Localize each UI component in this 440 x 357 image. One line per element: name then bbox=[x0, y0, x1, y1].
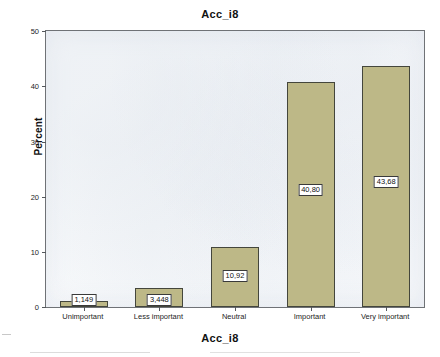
y-axis-tick-mark bbox=[42, 142, 46, 143]
y-axis-tick-mark bbox=[42, 86, 46, 87]
y-axis-tick: 50 bbox=[31, 22, 46, 40]
plot-area: 010203040501,1493,44810,9240,8043,68 bbox=[45, 30, 425, 308]
bar-value-label: 1,149 bbox=[71, 294, 96, 306]
y-axis-tick-label: 10 bbox=[31, 248, 42, 257]
y-axis-tick-mark bbox=[42, 197, 46, 198]
chart-title: Acc_i8 bbox=[0, 8, 440, 20]
x-axis-tick-mark bbox=[84, 307, 85, 311]
bar-value-label: 10,92 bbox=[223, 270, 248, 282]
y-axis-tick-label: 20 bbox=[31, 193, 42, 202]
x-axis-tick-mark bbox=[386, 307, 387, 311]
bar-chart: Acc_i8 Percent 010203040501,1493,44810,9… bbox=[0, 0, 440, 357]
scan-artifact bbox=[2, 334, 11, 335]
scan-artifact bbox=[30, 352, 150, 353]
bar-value-label: 40,80 bbox=[298, 184, 323, 196]
bar-value-label: 43,68 bbox=[374, 176, 399, 188]
x-axis-tick-mark bbox=[311, 307, 312, 311]
x-axis-tick-mark bbox=[159, 307, 160, 311]
y-axis-tick: 10 bbox=[31, 243, 46, 261]
bar-value-label: 3,448 bbox=[147, 294, 172, 306]
x-axis-tick-label: Very important bbox=[361, 312, 409, 321]
y-axis-tick-label: 40 bbox=[31, 82, 42, 91]
x-axis-tick-label: Unimportant bbox=[62, 312, 103, 321]
scan-artifact bbox=[210, 352, 360, 353]
y-axis-tick-label: 30 bbox=[31, 138, 42, 147]
x-axis-tick-mark bbox=[235, 307, 236, 311]
y-axis-tick-mark bbox=[42, 307, 46, 308]
x-axis-tick-label: Important bbox=[294, 312, 326, 321]
y-axis-tick-label: 50 bbox=[31, 27, 42, 36]
y-axis-tick: 30 bbox=[31, 132, 46, 150]
y-axis-tick: 20 bbox=[31, 188, 46, 206]
y-axis-tick-label: 0 bbox=[35, 303, 42, 312]
y-axis-tick: 40 bbox=[31, 77, 46, 95]
x-axis-tick-label: Less important bbox=[134, 312, 183, 321]
y-axis-tick-mark bbox=[42, 252, 46, 253]
y-axis-tick-mark bbox=[42, 31, 46, 32]
x-axis-tick-label: Neutral bbox=[222, 312, 246, 321]
x-axis-title: Acc_i8 bbox=[0, 332, 440, 344]
y-axis-tick: 0 bbox=[35, 298, 46, 316]
